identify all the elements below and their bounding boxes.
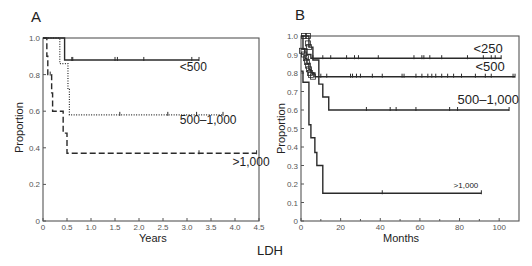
series-label: <500 <box>180 60 207 74</box>
series-label: 500–1,000 <box>180 113 237 127</box>
panel-a-label: A <box>31 8 41 25</box>
y-tick-label: 0.2 <box>29 180 41 189</box>
series-label: >1,000 <box>233 155 270 169</box>
survival-curve <box>43 38 223 115</box>
series--250: <250 <box>301 36 503 59</box>
panel-b-ylabel: Proportion <box>275 103 287 154</box>
series-label: >1,000 <box>454 181 479 190</box>
x-tick-label: 1.5 <box>109 223 121 232</box>
y-tick-label: 0.5 <box>287 125 299 134</box>
figure-canvas: 00.51.01.52.02.53.03.54.04.500.20.40.60.… <box>0 0 532 266</box>
series-label: 500–1,000 <box>458 92 519 107</box>
x-tick-label: 80 <box>455 223 464 232</box>
panel-b-plot: 02040608010000.10.20.30.40.50.60.70.80.9… <box>287 32 519 232</box>
x-tick-label: 20 <box>336 223 345 232</box>
survival-curve <box>301 71 481 193</box>
x-tick-label: 1.0 <box>85 223 97 232</box>
x-tick-label: 4.5 <box>253 223 265 232</box>
common-xlabel-ldh: LDH <box>257 243 283 258</box>
x-tick-label: 4.0 <box>229 223 241 232</box>
y-tick-label: 1.0 <box>29 34 41 43</box>
x-tick-label: 0.5 <box>61 223 73 232</box>
plot-frame <box>43 38 259 221</box>
series--1-000: >1,000 <box>43 38 270 169</box>
panel-b-xlabel: Months <box>383 232 419 244</box>
panel-b-label: B <box>295 6 305 23</box>
x-tick-label: 60 <box>415 223 424 232</box>
x-tick-label: 40 <box>376 223 385 232</box>
y-tick-label: 0.1 <box>287 199 299 208</box>
x-tick-label: 2.5 <box>157 223 169 232</box>
panel-a-xlabel: Years <box>139 232 167 244</box>
y-tick-label: 0.2 <box>287 180 299 189</box>
x-tick-label: 100 <box>493 223 507 232</box>
y-tick-label: 0.8 <box>287 69 299 78</box>
panel-a-ylabel: Proportion <box>13 102 25 153</box>
x-tick-label: 2.0 <box>133 223 145 232</box>
y-tick-label: 0.7 <box>287 88 299 97</box>
y-tick-label: 0.3 <box>287 162 299 171</box>
survival-curve <box>43 38 257 153</box>
y-tick-label: 0 <box>294 217 299 226</box>
panel-a-plot: 00.51.01.52.02.53.03.54.04.500.20.40.60.… <box>29 34 270 232</box>
series--1-000: >1,000 <box>301 71 481 194</box>
y-tick-label: 0.9 <box>287 51 299 60</box>
series-500-1-000: 500–1,000 <box>43 38 237 127</box>
series-label: <500 <box>475 59 504 74</box>
y-tick-label: 0.6 <box>29 107 41 116</box>
y-tick-label: 0 <box>36 217 41 226</box>
y-tick-label: 0.8 <box>29 71 41 80</box>
y-tick-label: 0.4 <box>29 144 41 153</box>
x-tick-label: 0 <box>299 223 304 232</box>
survival-curve <box>43 38 199 60</box>
x-tick-label: 3.0 <box>181 223 193 232</box>
y-tick-label: 1.0 <box>287 32 299 41</box>
survival-curve <box>301 36 501 58</box>
x-tick-label: 0 <box>41 223 46 232</box>
y-tick-label: 0.6 <box>287 106 299 115</box>
series-label: <250 <box>473 41 502 56</box>
y-tick-label: 0.4 <box>287 143 299 152</box>
x-tick-label: 3.5 <box>205 223 217 232</box>
